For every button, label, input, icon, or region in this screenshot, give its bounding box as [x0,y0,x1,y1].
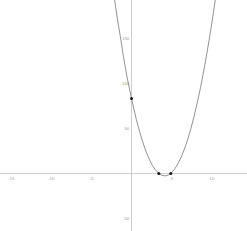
plot-figure: -15-10-5510 15010050-50 [0,0,247,231]
marker-y-intercept [130,97,133,100]
x-tick-label: -10 [48,176,55,181]
marker-root-right [169,172,172,175]
y-axis-ticks: 15010050-50 [122,36,130,221]
y-tick-label: 150 [122,36,130,41]
x-tick-label: -5 [89,176,93,181]
x-tick-label: 5 [170,176,173,181]
x-tick-label: 10 [209,176,214,181]
x-axis-ticks: -15-10-5510 [8,176,215,181]
parabola-curve [114,0,216,176]
marker-root-left [157,172,160,175]
x-tick-label: -15 [8,176,15,181]
plot-canvas: -15-10-5510 15010050-50 [0,0,247,231]
y-tick-label: -50 [123,216,130,221]
y-tick-label: 50 [124,126,129,131]
